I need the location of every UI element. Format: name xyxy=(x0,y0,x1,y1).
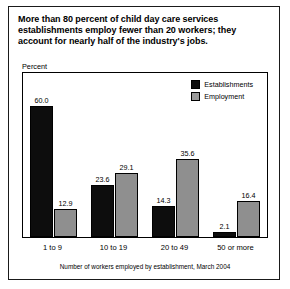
bar-employment xyxy=(237,201,260,237)
bar-value-label: 35.6 xyxy=(181,150,195,158)
x-axis-label: 20 to 49 xyxy=(144,243,205,252)
bar-item: 60.0 xyxy=(30,73,53,237)
bar-establishments xyxy=(91,185,114,237)
bar-item: 23.6 xyxy=(91,73,114,237)
bar-item: 2.1 xyxy=(213,73,236,237)
bar-item: 12.9 xyxy=(54,73,77,237)
bar-employment xyxy=(176,159,199,237)
bar-value-label: 16.4 xyxy=(242,192,256,200)
bar-item: 29.1 xyxy=(115,73,138,237)
bar-group: 14.335.6 xyxy=(145,73,206,237)
x-axis-labels: 1 to 910 to 1920 to 4950 or more xyxy=(22,243,268,255)
bar-value-label: 12.9 xyxy=(59,200,73,208)
x-axis-label: 1 to 9 xyxy=(22,243,83,252)
bars-container: 60.012.923.629.114.335.62.116.4 xyxy=(23,73,267,237)
bar-item: 16.4 xyxy=(237,73,260,237)
bar-value-label: 60.0 xyxy=(35,97,49,105)
bar-establishments xyxy=(30,106,53,237)
bar-establishments xyxy=(213,232,236,237)
bar-group: 23.629.1 xyxy=(84,73,145,237)
bar-item: 14.3 xyxy=(152,73,175,237)
bar-group: 2.116.4 xyxy=(206,73,267,237)
y-axis-caption: Percent xyxy=(22,62,47,71)
bar-value-label: 14.3 xyxy=(157,197,171,205)
chart-footnote: Number of workers employed by establishm… xyxy=(9,263,281,270)
x-axis-label: 50 or more xyxy=(205,243,266,252)
bar-group: 60.012.9 xyxy=(23,73,84,237)
bar-value-label: 29.1 xyxy=(120,164,134,172)
x-axis-label: 10 to 19 xyxy=(83,243,144,252)
bar-value-label: 23.6 xyxy=(96,176,110,184)
bar-employment xyxy=(115,173,138,237)
bar-item: 35.6 xyxy=(176,73,199,237)
chart-figure: More than 80 percent of child day care s… xyxy=(8,6,280,280)
bar-establishments xyxy=(152,206,175,237)
bar-employment xyxy=(54,209,77,237)
plot-area: Establishments Employment 60.012.923.629… xyxy=(22,72,268,238)
bar-value-label: 2.1 xyxy=(220,223,230,231)
chart-title: More than 80 percent of child day care s… xyxy=(18,14,270,48)
